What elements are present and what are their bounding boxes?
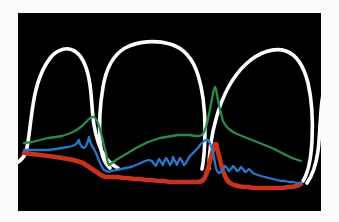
black-image-panel (18, 13, 321, 211)
gingival-margin-curve (24, 87, 301, 165)
measurement-curve-group (24, 87, 301, 188)
tooth-central-incisor-left (100, 42, 205, 169)
tooth-central-incisor-right (209, 50, 312, 181)
dental-diagram-svg (18, 13, 321, 211)
dental-profile-figure (0, 0, 339, 222)
